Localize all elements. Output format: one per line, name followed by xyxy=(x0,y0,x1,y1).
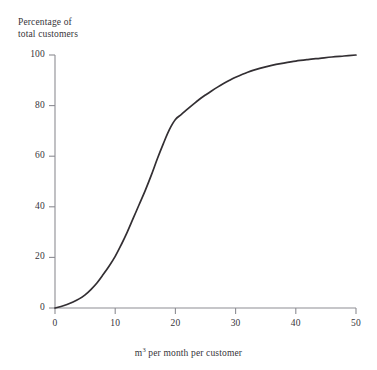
y-tick-label: 100 xyxy=(19,49,45,59)
x-tick-label: 10 xyxy=(102,318,128,328)
x-axis-ticks xyxy=(55,308,356,314)
y-tick-label: 0 xyxy=(19,302,45,312)
cumulative-distribution-curve xyxy=(55,55,356,308)
x-tick-label: 0 xyxy=(42,318,68,328)
x-tick-label: 40 xyxy=(283,318,309,328)
chart-figure: Percentage oftotal customers 02040608010… xyxy=(0,0,377,370)
y-tick-label: 60 xyxy=(19,150,45,160)
x-tick-label: 20 xyxy=(162,318,188,328)
x-tick-label: 30 xyxy=(223,318,249,328)
cubic-superscript: 3 xyxy=(142,346,145,353)
axes xyxy=(55,55,356,308)
plot-area xyxy=(0,0,377,370)
y-tick-label: 40 xyxy=(19,201,45,211)
y-tick-label: 20 xyxy=(19,251,45,261)
y-tick-label: 80 xyxy=(19,100,45,110)
x-axis-title: m3 per month per customer xyxy=(0,348,377,358)
x-tick-label: 50 xyxy=(343,318,369,328)
y-axis-ticks xyxy=(49,55,55,308)
x-axis-title-text: m3 per month per customer xyxy=(135,348,242,358)
